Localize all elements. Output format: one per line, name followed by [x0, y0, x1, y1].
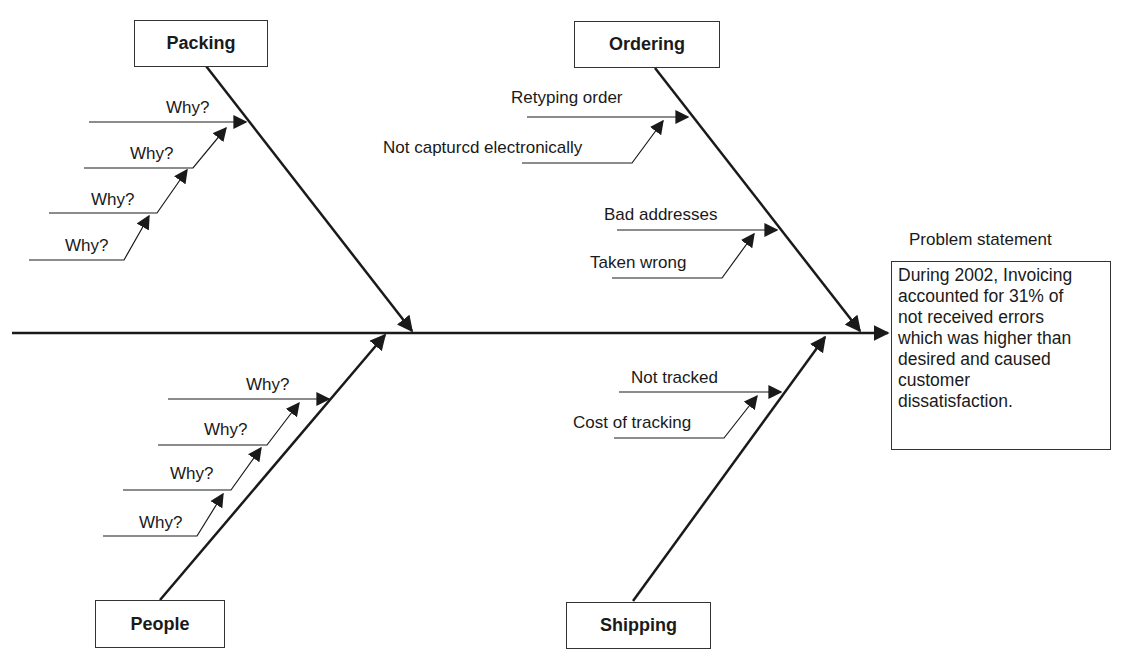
category-shipping: Shipping	[566, 602, 711, 649]
packing-cause-3: Why?	[91, 191, 134, 208]
shipping-cause-2: Cost of tracking	[573, 414, 691, 431]
ordering-cause-2: Not capturcd electronically	[383, 139, 582, 156]
people-bone	[103, 335, 385, 600]
problem-line-6: customer	[898, 370, 1104, 391]
packing-bone	[29, 66, 412, 331]
problem-line-1: During 2002, Invoicing	[898, 265, 1104, 286]
category-shipping-label: Shipping	[600, 615, 677, 636]
packing-cause-1: Why?	[166, 99, 209, 116]
ordering-bone	[522, 68, 860, 331]
packing-cause-4: Why?	[65, 237, 108, 254]
category-packing: Packing	[134, 20, 268, 67]
category-ordering-label: Ordering	[609, 34, 685, 55]
ordering-cause-3: Bad addresses	[604, 206, 717, 223]
problem-line-5: desired and caused	[898, 349, 1104, 370]
people-cause-2: Why?	[204, 421, 247, 438]
problem-line-7: dissatisfaction.	[898, 391, 1104, 412]
packing-cause-2: Why?	[130, 145, 173, 162]
shipping-cause-1: Not tracked	[631, 369, 718, 386]
problem-line-3: not received errors	[898, 307, 1104, 328]
category-people-label: People	[130, 614, 189, 635]
ordering-cause-1: Retyping order	[511, 89, 623, 106]
problem-statement-title: Problem statement	[909, 230, 1052, 250]
ordering-cause-4: Taken wrong	[590, 254, 686, 271]
problem-line-2: accounted for 31% of	[898, 286, 1104, 307]
problem-line-4: which was higher than	[898, 328, 1104, 349]
problem-statement-box: During 2002, Invoicing accounted for 31%…	[891, 261, 1111, 450]
category-people: People	[95, 600, 225, 648]
category-packing-label: Packing	[166, 33, 235, 54]
people-cause-3: Why?	[170, 465, 213, 482]
people-cause-4: Why?	[139, 514, 182, 531]
category-ordering: Ordering	[574, 21, 720, 68]
people-cause-1: Why?	[246, 376, 289, 393]
